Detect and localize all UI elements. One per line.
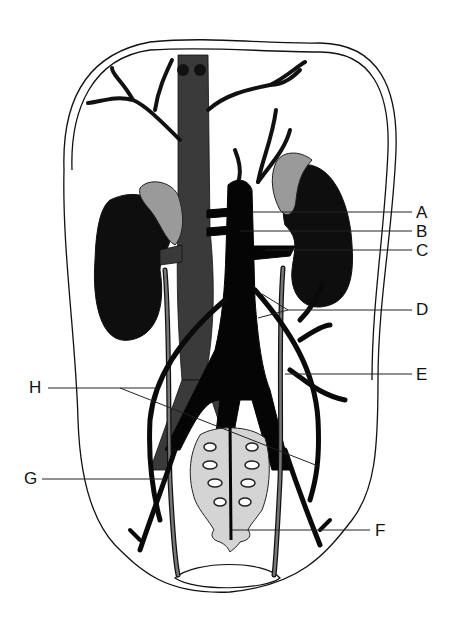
label-c: C xyxy=(416,242,428,259)
label-e: E xyxy=(416,366,427,383)
label-b: B xyxy=(416,223,427,240)
label-a: A xyxy=(416,204,427,221)
anatomy-diagram xyxy=(0,0,456,637)
label-h: H xyxy=(29,379,41,396)
label-f: F xyxy=(375,522,385,539)
label-g: G xyxy=(24,470,37,487)
label-d: D xyxy=(416,301,428,318)
sacrum xyxy=(190,420,269,552)
pelvic-outlet xyxy=(175,565,280,588)
